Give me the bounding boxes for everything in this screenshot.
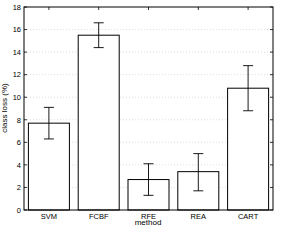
- x-axis-label: method: [135, 218, 162, 227]
- x-tick-label: FCBF: [89, 212, 109, 221]
- x-tick-label: CART: [238, 212, 259, 221]
- bars: [28, 23, 268, 210]
- y-tick-label: 12: [13, 70, 21, 79]
- y-tick-label: 6: [17, 138, 21, 147]
- bar-chart: 024681012141618 SVMFCBFRFEREACART method…: [0, 0, 281, 228]
- y-tick-label: 8: [17, 116, 21, 125]
- y-tick-label: 14: [13, 48, 21, 57]
- bar-fcbf: [78, 35, 119, 210]
- x-tick-label: REA: [191, 212, 206, 221]
- y-tick-label: 16: [13, 25, 21, 34]
- y-tick-label: 0: [17, 206, 21, 215]
- y-axis-label: class loss (%): [0, 83, 9, 133]
- y-tick-label: 10: [13, 93, 21, 102]
- y-tick-label: 18: [13, 3, 21, 12]
- y-tick-label: 2: [17, 183, 21, 192]
- y-tick-label: 4: [17, 161, 21, 170]
- x-tick-label: SVM: [41, 212, 57, 221]
